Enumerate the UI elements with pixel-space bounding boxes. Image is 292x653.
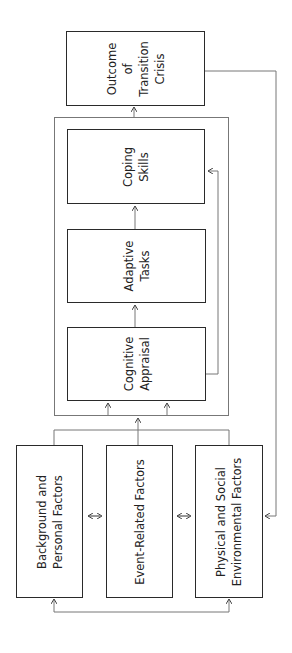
adaptive-tasks-label: Adaptive Tasks	[121, 241, 153, 292]
event-factors-label: Event-Related Factors	[132, 459, 148, 585]
background-factors-box: Background and Personal Factors	[16, 445, 83, 598]
outcome-box: Outcome of Transition Crisis	[66, 31, 205, 106]
outcome-label: Outcome of Transition Crisis	[104, 41, 168, 97]
coping-skills-box: Coping Skills	[67, 129, 205, 204]
background-factors-label: Background and Personal Factors	[34, 475, 66, 569]
cognitive-appraisal-box: Cognitive Appraisal	[67, 327, 206, 401]
event-factors-box: Event-Related Factors	[106, 445, 173, 598]
environmental-factors-label: Physical and Social Environmental Factor…	[213, 457, 245, 586]
adaptive-tasks-box: Adaptive Tasks	[67, 229, 206, 303]
cognitive-appraisal-label: Cognitive Appraisal	[121, 337, 153, 391]
coping-skills-label: Coping Skills	[120, 146, 152, 186]
environmental-factors-box: Physical and Social Environmental Factor…	[195, 445, 263, 598]
